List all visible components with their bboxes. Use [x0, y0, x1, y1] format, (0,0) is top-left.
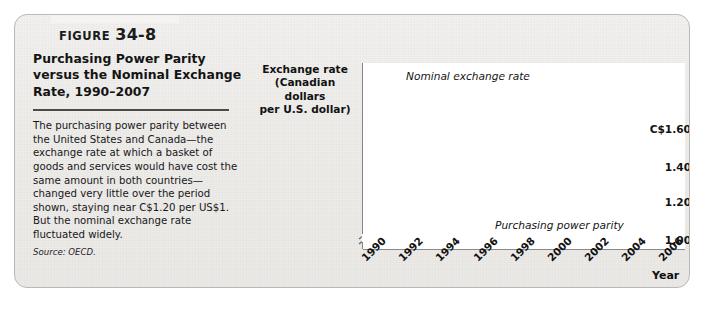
x-axis-title: Year: [652, 269, 679, 282]
figure-badge: Figure34-8: [59, 25, 156, 44]
figure-panel: Figure34-8 Purchasing Power Parity versu…: [14, 14, 690, 288]
caption-column: Purchasing Power Parity versus the Nomin…: [33, 51, 242, 257]
y-tick-label: 1.20: [587, 196, 690, 208]
caption-divider: [33, 109, 229, 111]
figure-badge-notch: [51, 14, 179, 23]
figure-label-word: Figure: [59, 29, 110, 43]
y-axis-title-line-3: per U.S. dollar): [253, 103, 357, 116]
y-tick-label: 1.40: [587, 161, 690, 173]
figure-body-text: The purchasing power parity between the …: [33, 119, 242, 241]
y-axis-title-line-1: Exchange rate: [253, 63, 357, 76]
y-axis-title: Exchange rate (Canadian dollars per U.S.…: [253, 63, 357, 117]
figure-source: Source: OECD.: [33, 247, 242, 257]
y-axis-title-line-2: (Canadian dollars: [253, 76, 357, 103]
figure-title: Purchasing Power Parity versus the Nomin…: [33, 51, 242, 100]
series-annotation-ppp: Purchasing power parity: [495, 219, 624, 231]
figure-number: 34-8: [115, 25, 156, 44]
source-label: Source:: [33, 247, 66, 257]
series-annotation-nominal: Nominal exchange rate: [406, 70, 530, 82]
chart-container: Exchange rate (Canadian dollars per U.S.…: [253, 41, 690, 287]
source-value: OECD.: [68, 247, 96, 257]
y-tick-label: C$1.60: [587, 123, 690, 135]
figure-root: Figure34-8 Purchasing Power Parity versu…: [0, 0, 719, 318]
